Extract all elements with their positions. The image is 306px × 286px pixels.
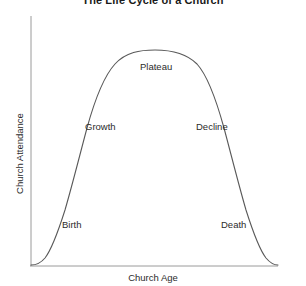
- curve-annotation-death: Death: [221, 219, 246, 230]
- curve-annotation-birth: Birth: [62, 219, 82, 230]
- x-axis-label: Church Age: [0, 272, 306, 283]
- chart-plot-area: [0, 0, 306, 286]
- y-axis-label: Church Attendance: [14, 99, 25, 209]
- curve-annotation-decline: Decline: [196, 121, 228, 132]
- life-cycle-curve: [31, 50, 278, 265]
- curve-annotation-plateau: Plateau: [140, 61, 172, 72]
- life-cycle-chart: The Life Cycle of a Church Church Attend…: [0, 0, 306, 286]
- curve-annotation-growth: Growth: [85, 121, 116, 132]
